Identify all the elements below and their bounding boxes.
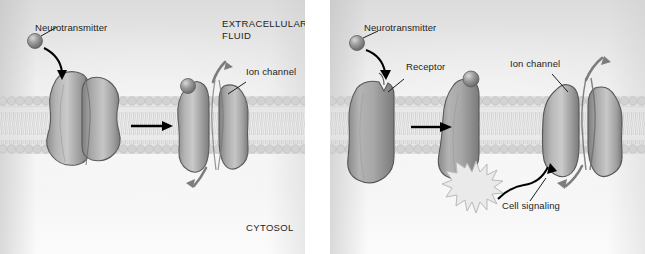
label-ion-channel-left: Ion channel bbox=[246, 66, 296, 78]
binding-arrow-left bbox=[44, 48, 67, 80]
label-ion-channel-right: Ion channel bbox=[510, 58, 560, 70]
label-extracellular-fluid: EXTRACELLULAR FLUID bbox=[222, 18, 305, 41]
panel-direct-gating: EXTRACELLULAR FLUID Neurotransmitter Ion… bbox=[0, 0, 305, 254]
free-neurotransmitter bbox=[28, 34, 43, 49]
bound-neurotransmitter-right bbox=[463, 71, 479, 87]
label-cytosol: CYTOSOL bbox=[246, 222, 294, 234]
panel-indirect-gating: Neurotransmitter Receptor Ion channel Ce… bbox=[330, 0, 645, 254]
closed-ion-channel bbox=[47, 72, 121, 166]
free-neurotransmitter-group-right bbox=[350, 31, 392, 80]
open-ion-channel-right bbox=[543, 78, 623, 177]
lipid-heads-inner bbox=[0, 145, 305, 153]
label-neurotransmitter-left: Neurotransmitter bbox=[35, 22, 107, 34]
label-receptor: Receptor bbox=[406, 61, 445, 73]
bound-neurotransmitter bbox=[181, 79, 196, 94]
figure-root: EXTRACELLULAR FLUID Neurotransmitter Ion… bbox=[0, 0, 645, 254]
free-neurotransmitter-group-left bbox=[28, 27, 68, 80]
label-neurotransmitter-right: Neurotransmitter bbox=[364, 22, 436, 34]
free-neurotransmitter-right bbox=[350, 36, 365, 51]
open-ion-channel bbox=[178, 79, 248, 173]
unbound-receptor bbox=[348, 73, 394, 183]
transition-arrow-left bbox=[131, 121, 173, 131]
label-cell-signaling: Cell signaling bbox=[502, 200, 560, 212]
panel-right-graphics bbox=[330, 0, 645, 254]
cell-signaling-arrow bbox=[498, 163, 557, 201]
lipid-heads-outer bbox=[0, 97, 305, 105]
binding-arrow-right bbox=[366, 50, 391, 80]
cell-signaling-leader-line bbox=[530, 178, 546, 201]
